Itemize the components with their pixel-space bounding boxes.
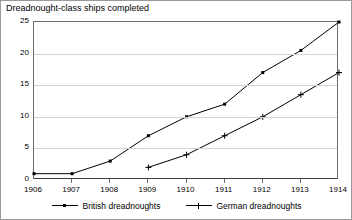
gridline — [34, 148, 337, 149]
series-line — [148, 73, 339, 168]
y-axis-tick-label: 20 — [5, 49, 29, 57]
y-axis-tick-label: 15 — [5, 80, 29, 88]
x-axis-tick-label: 1912 — [247, 185, 277, 194]
data-point-marker — [336, 70, 342, 76]
x-axis-tick-mark — [300, 179, 301, 183]
x-axis-tick-mark — [262, 179, 263, 183]
y-axis-tick-label: 5 — [5, 143, 29, 151]
x-axis-tick-label: 1911 — [209, 185, 239, 194]
legend-line-marker-square-icon — [52, 202, 78, 210]
legend-item-german[interactable]: German dreadnoughts — [186, 201, 301, 211]
x-axis-tick-mark — [147, 179, 148, 183]
data-point-marker — [145, 164, 151, 170]
legend-line-marker-plus-icon — [186, 202, 212, 210]
chart-legend: British dreadnoughts German dreadnoughts — [1, 198, 352, 214]
data-point-marker — [71, 172, 74, 175]
x-axis-tick-label: 1907 — [56, 185, 86, 194]
x-axis-tick-label: 1914 — [323, 185, 352, 194]
x-axis-tick-mark — [71, 179, 72, 183]
data-point-marker — [147, 134, 150, 137]
x-axis-tick-label: 1909 — [132, 185, 162, 194]
data-point-marker — [184, 152, 190, 158]
data-point-marker — [298, 92, 304, 98]
chart-container: Dreadnought-class ships completed 051015… — [0, 0, 352, 220]
data-point-marker — [223, 103, 226, 106]
data-point-marker — [261, 71, 264, 74]
plot-area — [33, 21, 338, 179]
data-point-marker — [222, 133, 228, 139]
x-axis-tick-mark — [224, 179, 225, 183]
legend-label-british: British dreadnoughts — [82, 201, 160, 211]
series-line — [34, 22, 339, 174]
x-axis-tick-label: 1913 — [285, 185, 315, 194]
data-point-marker — [109, 160, 112, 163]
data-point-marker — [338, 21, 341, 24]
x-axis-tick-label: 1910 — [171, 185, 201, 194]
x-axis-tick-mark — [186, 179, 187, 183]
y-axis-tick-label: 25 — [5, 17, 29, 25]
x-axis-labels: 190619071908190919101911191219131914 — [1, 182, 352, 194]
gridline — [34, 85, 337, 86]
x-axis-tick-label: 1906 — [18, 185, 48, 194]
x-axis-tick-mark — [109, 179, 110, 183]
legend-label-german: German dreadnoughts — [216, 201, 301, 211]
data-point-marker — [299, 49, 302, 52]
legend-item-british[interactable]: British dreadnoughts — [52, 201, 160, 211]
y-axis-tick-label: 10 — [5, 112, 29, 120]
series-lines — [34, 22, 339, 180]
gridline — [34, 117, 337, 118]
x-axis-tick-label: 1908 — [94, 185, 124, 194]
data-point-marker — [33, 172, 36, 175]
gridline — [34, 54, 337, 55]
